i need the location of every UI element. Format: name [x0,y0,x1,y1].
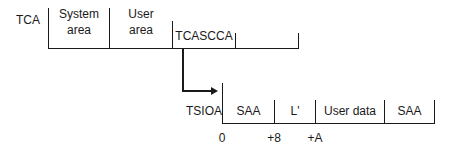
offset-8: +8 [264,132,284,145]
arrow-vertical [182,48,184,92]
tca-divider [235,33,236,49]
tca-system-area-label: System area [50,8,108,37]
tsioa-label: TSIOA [186,105,220,118]
arrow-horizontal [182,90,212,92]
arrowhead-icon [211,87,218,95]
offset-a: +A [305,132,325,145]
tca-divider [48,8,49,49]
tca-baseline [48,48,299,49]
tsioa-field-saa: SAA [223,105,274,118]
tsioa-divider [434,100,435,124]
tsioa-baseline [222,123,435,124]
tcascca-label: TCASCCA [173,30,235,43]
tsioa-field-saa-trailer: SAA [385,105,434,118]
tca-label: TCA [14,14,42,27]
tsioa-field-length: L' [275,105,315,118]
offset-0: 0 [214,132,230,145]
tca-user-area-label: User area [110,8,172,37]
tca-divider [298,33,299,49]
tsioa-field-user-data: User data [316,105,384,118]
